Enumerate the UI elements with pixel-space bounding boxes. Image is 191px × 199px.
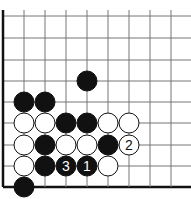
move-number-label: 1 [83, 158, 91, 174]
black-stone [14, 177, 34, 197]
white-stone: 2 [119, 135, 139, 155]
stones-layer: 231 [14, 71, 139, 197]
black-stone [56, 113, 76, 133]
go-board: 231 [0, 0, 191, 199]
white-stone [98, 156, 118, 176]
black-stone: 1 [77, 156, 97, 176]
move-number-label: 2 [125, 137, 133, 153]
black-stone [35, 92, 55, 112]
white-stone [14, 113, 34, 133]
black-stone [77, 113, 97, 133]
black-stone [98, 135, 118, 155]
white-stone [14, 135, 34, 155]
white-stone [119, 113, 139, 133]
white-stone [98, 113, 118, 133]
black-stone [77, 71, 97, 91]
white-stone [14, 156, 34, 176]
move-number-label: 3 [62, 158, 70, 174]
white-stone [56, 135, 76, 155]
black-stone [35, 135, 55, 155]
black-stone [14, 92, 34, 112]
white-stone [77, 135, 97, 155]
black-stone [35, 156, 55, 176]
black-stone: 3 [56, 156, 76, 176]
white-stone [35, 113, 55, 133]
